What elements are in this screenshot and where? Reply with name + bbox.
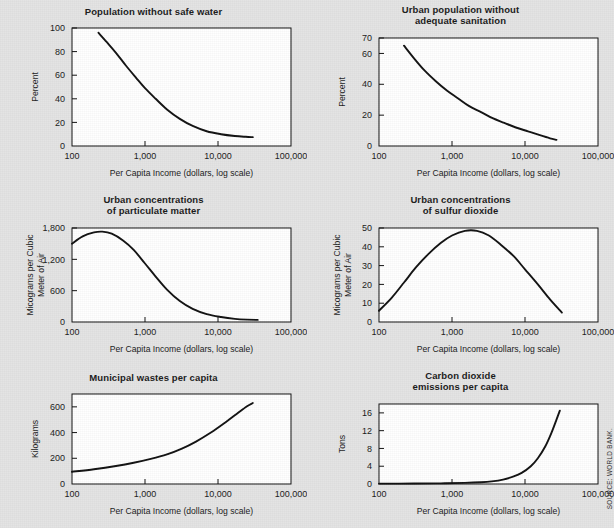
chart-plot-sanitation: 0204060701001,00010,000100,000Per Capita… — [307, 0, 614, 190]
x-tick-label: 1,000 — [134, 489, 157, 499]
x-tick-label: 10,000 — [204, 489, 232, 499]
x-axis-title: Per Capita Income (dollars, log scale) — [417, 344, 560, 354]
chart-plot-sulfur-dioxide: 010203040501001,00010,000100,000Per Capi… — [307, 190, 614, 366]
x-tick-label: 100 — [371, 489, 386, 499]
y-tick-label: 600 — [50, 286, 65, 296]
plot-frame — [379, 404, 598, 484]
y-tick-label: 0 — [60, 317, 65, 327]
chart-plot-safe-water: 0204060801001001,00010,000100,000Per Cap… — [0, 0, 307, 190]
y-tick-label: 200 — [50, 453, 65, 463]
x-axis-title: Per Capita Income (dollars, log scale) — [110, 168, 253, 178]
y-tick-label: 40 — [55, 94, 65, 104]
plot-frame — [72, 28, 291, 146]
x-tick-label: 10,000 — [511, 327, 539, 337]
x-tick-label: 100 — [371, 151, 386, 161]
y-tick-label: 70 — [362, 33, 372, 43]
x-tick-label: 10,000 — [204, 151, 232, 161]
y-axis-title: Tons — [337, 435, 347, 453]
plot-frame — [72, 394, 291, 484]
y-tick-label: 0 — [60, 479, 65, 489]
chart-panel-particulate-matter: Urban concentrationsof particulate matte… — [0, 190, 307, 366]
x-axis-title: Per Capita Income (dollars, log scale) — [110, 506, 253, 516]
x-tick-label: 100,000 — [275, 151, 307, 161]
y-tick-label: 20 — [55, 118, 65, 128]
plot-frame — [72, 228, 291, 322]
x-tick-label: 10,000 — [511, 151, 539, 161]
x-tick-label: 1,000 — [441, 151, 464, 161]
x-tick-label: 1,000 — [441, 327, 464, 337]
y-tick-label: 40 — [362, 79, 372, 89]
environmental-indicators-figure: Population without safe water02040608010… — [0, 0, 614, 528]
x-tick-label: 10,000 — [511, 489, 539, 499]
chart-panel-municipal-wastes: Municipal wastes per capita0200400600100… — [0, 366, 307, 528]
y-tick-label: 60 — [362, 49, 372, 59]
y-tick-label: 0 — [367, 479, 372, 489]
y-tick-label: 100 — [50, 23, 65, 33]
y-tick-label: 20 — [362, 280, 372, 290]
x-axis-title: Per Capita Income (dollars, log scale) — [417, 168, 560, 178]
y-tick-label: 12 — [362, 426, 372, 436]
chart-panel-sanitation: Urban population withoutadequate sanitat… — [307, 0, 614, 190]
y-tick-label: 0 — [367, 317, 372, 327]
x-axis-title: Per Capita Income (dollars, log scale) — [417, 506, 560, 516]
chart-panel-sulfur-dioxide: Urban concentrationsof sulfur dioxide010… — [307, 190, 614, 366]
y-axis-title: Micograms per Cubic — [25, 234, 35, 316]
source-note: SOURCE: WORLD BANK. — [606, 428, 613, 509]
chart-plot-particulate-matter: 06001,2001,8001001,00010,000100,000Per C… — [0, 190, 307, 366]
y-tick-label: 16 — [362, 408, 372, 418]
y-tick-label: 80 — [55, 47, 65, 57]
y-axis-title: Kilograms — [30, 420, 40, 458]
x-tick-label: 100,000 — [582, 327, 614, 337]
chart-panel-carbon-dioxide: Carbon dioxideemissions per capita048121… — [307, 366, 614, 528]
chart-plot-carbon-dioxide: 04812161001,00010,000100,000Per Capita I… — [307, 366, 614, 528]
x-tick-label: 100 — [371, 327, 386, 337]
y-tick-label: 600 — [50, 402, 65, 412]
x-tick-label: 100 — [64, 327, 79, 337]
y-tick-label: 10 — [362, 298, 372, 308]
x-tick-label: 1,000 — [134, 327, 157, 337]
y-tick-label: 30 — [362, 261, 372, 271]
plot-frame — [379, 228, 598, 322]
x-tick-label: 1,000 — [134, 151, 157, 161]
y-tick-label: 400 — [50, 428, 65, 438]
chart-plot-municipal-wastes: 02004006001001,00010,000100,000Per Capit… — [0, 366, 307, 528]
y-axis-title: Percent — [30, 72, 40, 102]
y-tick-label: 1,800 — [42, 223, 65, 233]
chart-panel-safe-water: Population without safe water02040608010… — [0, 0, 307, 190]
y-axis-title: Micograms per Cubic — [332, 234, 342, 316]
x-axis-title: Per Capita Income (dollars, log scale) — [110, 344, 253, 354]
y-axis-title: Meter of Air — [36, 253, 46, 297]
x-tick-label: 100 — [64, 489, 79, 499]
y-tick-label: 0 — [367, 141, 372, 151]
x-tick-label: 1,000 — [441, 489, 464, 499]
y-axis-title: Percent — [337, 77, 347, 107]
y-tick-label: 20 — [362, 110, 372, 120]
x-tick-label: 100,000 — [275, 327, 307, 337]
y-axis-title: Meter of Air — [343, 253, 353, 297]
x-tick-label: 100,000 — [582, 151, 614, 161]
y-tick-label: 0 — [60, 141, 65, 151]
y-tick-label: 8 — [367, 444, 372, 454]
y-tick-label: 4 — [367, 461, 372, 471]
x-tick-label: 100,000 — [275, 489, 307, 499]
x-tick-label: 10,000 — [204, 327, 232, 337]
x-tick-label: 100 — [64, 151, 79, 161]
y-tick-label: 40 — [362, 242, 372, 252]
y-tick-label: 50 — [362, 223, 372, 233]
y-tick-label: 60 — [55, 70, 65, 80]
